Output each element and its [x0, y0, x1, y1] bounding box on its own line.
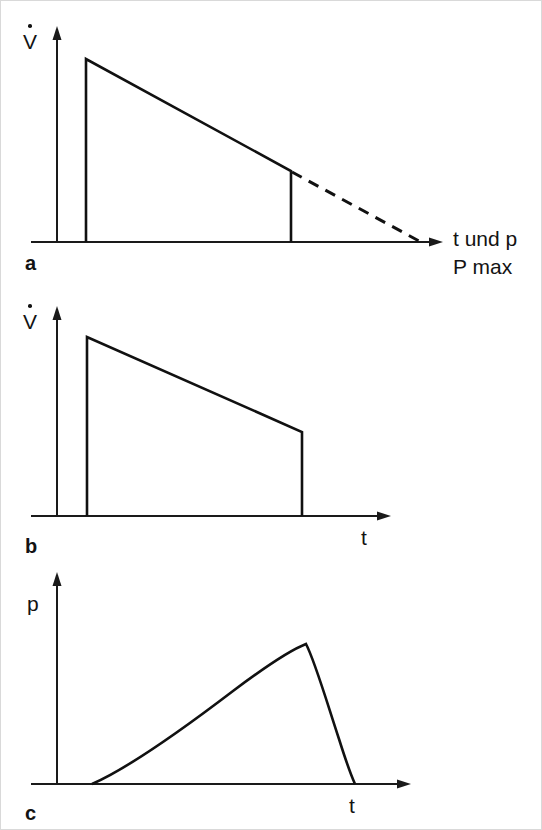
panel-b-flow-curve [87, 337, 302, 516]
panel-c-y-axis-arrowhead [53, 572, 62, 586]
panel-c-y-axis-label: p [27, 593, 39, 614]
panel-a-flow-curve [86, 59, 291, 242]
figure-root: V t und p P max a V t b [0, 0, 542, 830]
panel-b-x-axis-label: t [361, 527, 367, 548]
chart-panel-a: V t und p P max a [1, 1, 542, 281]
panel-b-y-axis-label: V [23, 311, 37, 332]
panel-b-letter: b [25, 536, 37, 556]
panel-a-letter: a [25, 253, 36, 273]
panel-c-x-axis-arrowhead [397, 780, 411, 789]
panel-a-pmax-annotation: P max [453, 256, 512, 277]
panel-c-letter: c [25, 803, 36, 823]
panel-a-y-axis-label: V [23, 31, 37, 52]
panel-a-x-axis-arrowhead [429, 238, 443, 247]
panel-b-x-axis-arrowhead [377, 512, 391, 521]
panel-c-pressure-curve [92, 644, 355, 784]
chart-panel-c: p t c [1, 561, 542, 830]
panel-c-x-axis-label: t [349, 795, 355, 816]
chart-panel-b: V t b [1, 281, 542, 561]
panel-c-plot [1, 561, 542, 830]
panel-a-x-axis-label: t und p [453, 228, 517, 249]
panel-a-flow-extrapolation-dashed [292, 172, 419, 241]
panel-b-plot [1, 281, 542, 561]
panel-a-y-axis-arrowhead [53, 26, 62, 40]
panel-b-y-axis-arrowhead [53, 306, 62, 320]
